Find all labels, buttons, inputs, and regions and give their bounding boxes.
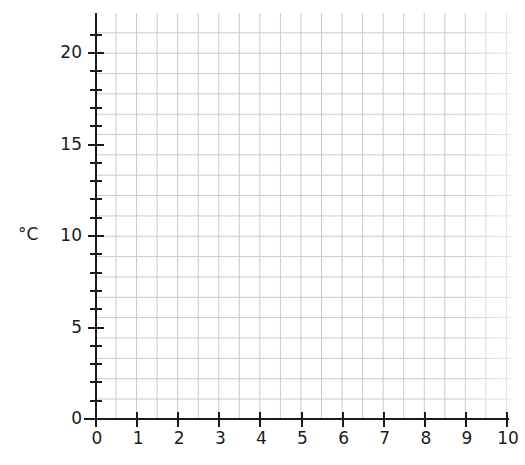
x-axis-tick-label: 6	[324, 430, 364, 447]
x-axis-tick-label: 10	[488, 430, 525, 447]
y-tick-minor	[90, 272, 102, 274]
y-tick-minor	[90, 308, 102, 310]
x-tick-major	[465, 412, 467, 427]
x-axis-tick-label: 1	[118, 430, 158, 447]
y-tick-minor	[90, 217, 102, 219]
y-tick-minor	[90, 34, 102, 36]
x-tick-major	[218, 412, 220, 427]
x-axis-tick-label: 8	[406, 430, 446, 447]
y-tick-minor	[90, 253, 102, 255]
chart-container: °C 20151050 012345678910	[0, 0, 525, 465]
x-axis-tick-label: 0	[77, 430, 117, 447]
y-tick-minor	[90, 180, 102, 182]
y-tick-major	[88, 52, 104, 54]
plot-grid	[96, 13, 512, 420]
y-tick-minor	[90, 89, 102, 91]
y-axis-tick-label: 0	[42, 410, 82, 427]
y-axis-tick-label: 15	[42, 136, 82, 153]
x-axis-tick-label: 3	[200, 430, 240, 447]
x-tick-major	[136, 412, 138, 427]
y-tick-minor	[90, 400, 102, 402]
x-axis-tick-label: 2	[159, 430, 199, 447]
x-tick-major	[424, 412, 426, 427]
y-axis-tick-label: 10	[42, 227, 82, 244]
y-tick-minor	[90, 363, 102, 365]
x-tick-major	[342, 412, 344, 427]
y-tick-minor	[90, 162, 102, 164]
x-axis-tick-label: 5	[283, 430, 323, 447]
y-tick-major	[88, 327, 104, 329]
x-tick-major	[506, 412, 508, 427]
y-axis-title: °C	[18, 226, 38, 243]
y-tick-minor	[90, 290, 102, 292]
x-tick-major	[95, 412, 97, 427]
x-axis-tick-label: 4	[241, 430, 281, 447]
x-tick-major	[177, 412, 179, 427]
y-axis-tick-label: 5	[42, 319, 82, 336]
y-axis-tick-label-wrap: 10	[40, 236, 82, 237]
x-axis-tick-label: 9	[447, 430, 487, 447]
y-tick-minor	[90, 381, 102, 383]
x-axis-tick-label: 7	[365, 430, 405, 447]
x-tick-major	[259, 412, 261, 427]
y-tick-minor	[90, 107, 102, 109]
y-tick-minor	[90, 125, 102, 127]
y-tick-major	[88, 144, 104, 146]
y-tick-major	[88, 235, 104, 237]
y-axis-tick-label-wrap: 0	[40, 419, 82, 420]
x-tick-major	[383, 412, 385, 427]
y-tick-minor	[90, 198, 102, 200]
y-axis-tick-label-wrap: 5	[40, 328, 82, 329]
y-axis-tick-label-wrap: 15	[40, 145, 82, 146]
y-axis-tick-label: 20	[42, 44, 82, 61]
y-axis-tick-label-wrap: 20	[40, 53, 82, 54]
x-axis-line	[84, 418, 509, 420]
y-tick-minor	[90, 70, 102, 72]
x-tick-major	[301, 412, 303, 427]
y-tick-minor	[90, 345, 102, 347]
